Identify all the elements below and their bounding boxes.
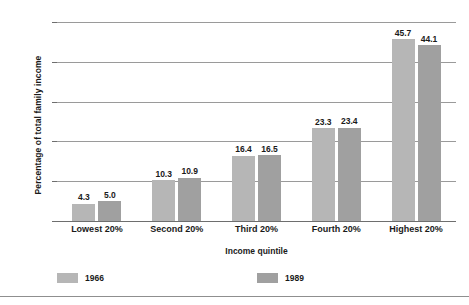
x-tick-label-highest: Highest 20% [376, 224, 456, 234]
bar-group-lowest: 4.3 5.0 [57, 22, 137, 221]
bar-chart: Percentage of total family income 50 40 … [0, 0, 469, 305]
bar-1989-lowest[interactable]: 5.0 [98, 201, 121, 221]
plot-area: 4.3 5.0 10.3 10.9 16.4 16.5 [57, 22, 456, 221]
bottom-divider [0, 296, 469, 297]
bar-value-label: 10.9 [181, 167, 198, 176]
bar-groups: 4.3 5.0 10.3 10.9 16.4 16.5 [57, 22, 456, 221]
legend-swatch-icon-1989 [257, 273, 278, 283]
x-tick-label-fourth: Fourth 20% [296, 224, 376, 234]
tick-mark-0 [52, 221, 57, 222]
x-tick-label-second: Second 20% [137, 224, 217, 234]
legend-label-1989: 1989 [285, 273, 304, 283]
bar-group-fourth: 23.3 23.4 [296, 22, 376, 221]
bar-value-label: 10.3 [155, 170, 172, 179]
bar-1989-third[interactable]: 16.5 [258, 155, 281, 221]
bar-1966-third[interactable]: 16.4 [232, 156, 255, 221]
legend-swatch-icon-1966 [57, 273, 78, 283]
bar-1989-highest[interactable]: 44.1 [418, 45, 441, 221]
axis-baseline [57, 221, 456, 222]
bar-1966-fourth[interactable]: 23.3 [312, 128, 335, 221]
bar-value-label: 23.3 [315, 118, 332, 127]
y-axis-title: Percentage of total family income [33, 25, 43, 225]
bar-value-label: 4.3 [78, 193, 90, 202]
bar-1989-fourth[interactable]: 23.4 [338, 128, 361, 221]
x-tick-label-lowest: Lowest 20% [57, 224, 137, 234]
bar-value-label: 45.7 [395, 29, 412, 38]
bar-group-highest: 45.7 44.1 [376, 22, 456, 221]
bar-value-label: 16.5 [261, 145, 278, 154]
chart-legend: 1966 1989 [57, 273, 397, 283]
bar-1966-lowest[interactable]: 4.3 [72, 204, 95, 221]
bar-value-label: 5.0 [104, 191, 116, 200]
bar-value-label: 23.4 [341, 117, 358, 126]
bar-value-label: 16.4 [235, 145, 252, 154]
bar-1989-second[interactable]: 10.9 [178, 178, 201, 221]
bar-group-second: 10.3 10.9 [137, 22, 217, 221]
bar-group-third: 16.4 16.5 [217, 22, 297, 221]
bar-1966-highest[interactable]: 45.7 [392, 39, 415, 221]
bar-1966-second[interactable]: 10.3 [152, 180, 175, 221]
legend-label-1966: 1966 [85, 273, 104, 283]
x-tick-label-third: Third 20% [217, 224, 297, 234]
legend-item-1966[interactable]: 1966 [57, 273, 257, 283]
legend-item-1989[interactable]: 1989 [257, 273, 304, 283]
x-axis-title: Income quintile [57, 246, 456, 256]
bar-value-label: 44.1 [421, 35, 438, 44]
x-axis-tick-labels: Lowest 20% Second 20% Third 20% Fourth 2… [57, 224, 456, 234]
